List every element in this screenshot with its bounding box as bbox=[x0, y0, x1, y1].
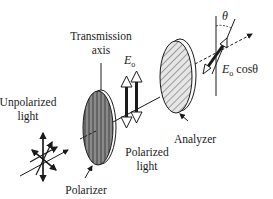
polarizer-label: Polarizer bbox=[65, 184, 107, 196]
unpolarized-label-line1: Unpolarized bbox=[0, 96, 57, 109]
polarized-light-label-line1: Polarized bbox=[125, 146, 169, 158]
analyzer-label: Analyzer bbox=[174, 133, 216, 146]
analyzer-pointer bbox=[180, 114, 188, 121]
cos-theta-text: cosθ bbox=[233, 62, 258, 76]
e0-label: Eo bbox=[123, 53, 135, 69]
polarized-light-arrows-icon bbox=[121, 71, 142, 128]
unpolarized-light-star-icon bbox=[30, 133, 57, 181]
polarized-light-label-line2: light bbox=[136, 160, 158, 173]
transmission-axis-label-line2: axis bbox=[92, 44, 111, 56]
e0-subscript: o bbox=[131, 60, 135, 69]
unpolarized-label-line2: light bbox=[17, 110, 39, 123]
e0-cos-theta-label: Eo cosθ bbox=[221, 62, 258, 78]
polarizer-disk bbox=[83, 90, 116, 165]
polarization-diagram: Transmission axis Eo Unpolarized light P… bbox=[0, 0, 273, 199]
light-beam-outgoing bbox=[195, 34, 252, 64]
theta-label: θ bbox=[222, 9, 228, 23]
transmission-axis-label-line1: Transmission bbox=[70, 30, 132, 42]
polarizer-pointer bbox=[85, 166, 92, 178]
analyzer-disk bbox=[160, 39, 196, 113]
theta-arc bbox=[216, 25, 231, 28]
